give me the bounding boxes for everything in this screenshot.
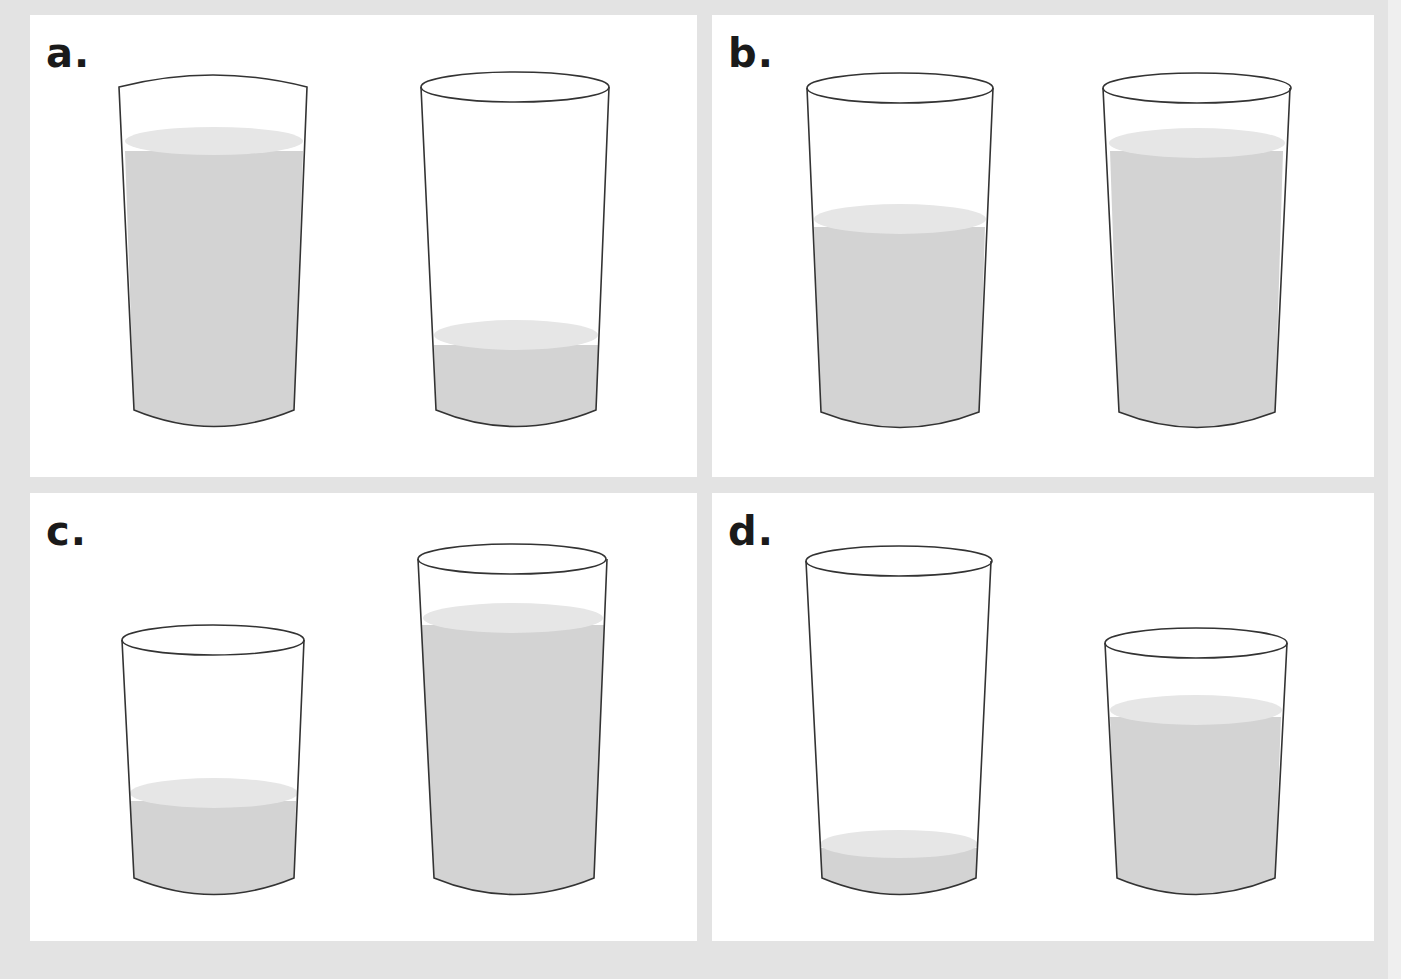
panel-d-scene — [712, 493, 1374, 941]
glass-b-right-icon — [1103, 73, 1291, 428]
right-edge-strip — [1388, 0, 1401, 979]
glass-a-right-icon — [421, 72, 609, 427]
panel-b: b. — [712, 15, 1374, 477]
glass-c-left-icon — [122, 625, 304, 895]
panel-b-scene — [712, 15, 1374, 477]
glass-c-right-icon — [418, 544, 607, 895]
glass-d-left-icon — [806, 546, 992, 895]
panel-c: c. — [30, 493, 697, 941]
glass-a-left-icon — [119, 75, 307, 427]
glass-d-right-icon — [1105, 628, 1287, 895]
panel-d: d. — [712, 493, 1374, 941]
panel-a-scene — [30, 15, 697, 477]
panel-a: a. — [30, 15, 697, 477]
glass-b-left-icon — [807, 73, 993, 428]
panel-c-scene — [30, 493, 697, 941]
